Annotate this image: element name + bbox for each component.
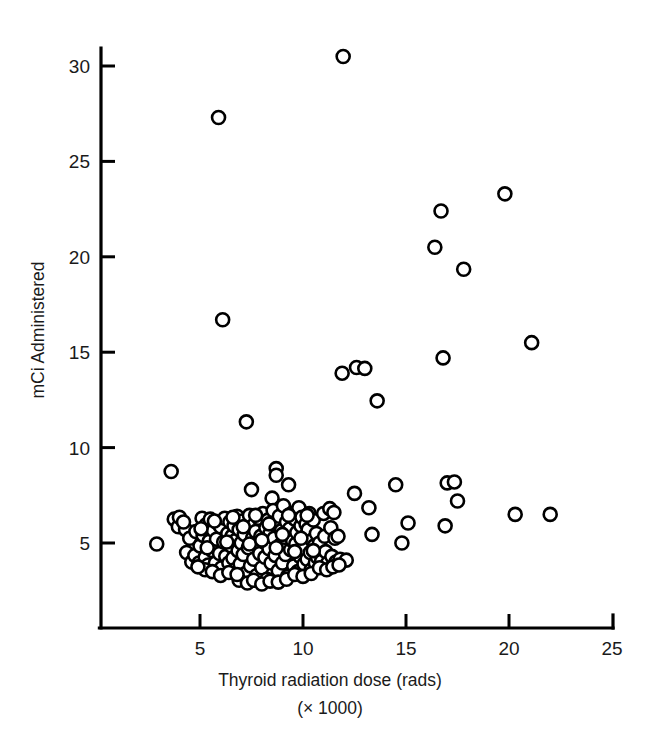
x-tick-label-25: 25 [601,638,622,659]
data-point [366,528,379,541]
y-tick-labels: 51015202530 [69,56,90,554]
data-point [282,478,295,491]
y-tick-label-10: 10 [69,438,90,459]
x-tick-label-20: 20 [498,638,519,659]
data-point [439,519,452,532]
data-point [195,522,208,535]
y-tick-label-15: 15 [69,342,90,363]
x-tick-labels: 510152025 [195,638,623,659]
data-point [220,536,233,549]
data-point [327,506,340,519]
data-point [294,532,307,545]
data-point [288,545,301,558]
data-point [249,509,262,522]
data-point [371,394,384,407]
y-axis-title: mCi Administered [28,261,48,398]
data-point [245,483,258,496]
data-point [307,544,320,557]
data-point [270,541,283,554]
x-tick-label-5: 5 [195,638,206,659]
data-point [243,537,256,550]
data-point [177,516,190,529]
data-point [231,568,244,581]
y-tick-label-20: 20 [69,247,90,268]
data-point [282,509,295,522]
data-point [448,475,461,488]
data-point [348,487,361,500]
y-tick-label-5: 5 [79,533,90,554]
data-point [362,501,375,514]
data-point [332,530,345,543]
chart-canvas: 51015202530 510152025 mCi Administered T… [0,0,653,743]
data-point [402,516,415,529]
data-point [237,520,250,533]
data-point [240,415,253,428]
data-point [301,509,314,522]
data-point [191,560,204,573]
x-tick-label-15: 15 [395,638,416,659]
data-point [255,534,268,547]
data-point [276,528,289,541]
data-point [509,508,522,521]
data-point [428,241,441,254]
axis-titles: mCi Administered Thyroid radiation dose … [28,261,442,718]
data-point [544,508,557,521]
scatter-plot-figure: 51015202530 510152025 mCi Administered T… [0,0,653,743]
data-point [336,367,349,380]
y-tick-label-30: 30 [69,56,90,77]
x-axis-title-multiplier: (× 1000) [297,698,363,718]
data-point [263,517,276,530]
data-point [457,263,470,276]
data-point [165,465,178,478]
data-point [389,478,402,491]
data-point [333,558,346,571]
data-point [150,537,163,550]
data-point [498,187,511,200]
x-tick-label-10: 10 [292,638,313,659]
data-point [358,362,371,375]
data-point [451,495,464,508]
data-points [150,50,556,591]
data-point [435,205,448,218]
x-axis-title: Thyroid radiation dose (rads) [218,670,442,690]
data-point [525,336,538,349]
data-point [216,313,229,326]
data-point [208,515,221,528]
data-point [201,541,214,554]
data-point [395,537,408,550]
data-point [337,50,350,63]
y-tick-label-25: 25 [69,151,90,172]
data-point [212,111,225,124]
data-point [437,351,450,364]
data-point [270,469,283,482]
